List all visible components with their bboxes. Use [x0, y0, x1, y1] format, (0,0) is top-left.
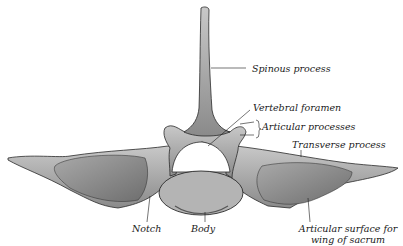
label-notch: Notch — [132, 223, 161, 234]
anatomy-figure: Spinous process Vertebral foramen Articu… — [0, 0, 403, 246]
label-transverse-process: Transverse process — [292, 139, 386, 150]
left-articular-surface-shape — [54, 155, 147, 201]
right-articular-surface-shape — [257, 163, 352, 205]
vertebral-body-shape — [159, 171, 243, 215]
label-articular-processes: Articular processes — [262, 121, 356, 132]
label-spinous-process: Spinous process — [252, 63, 331, 74]
label-articular-surface: Articular surface for wing of sacrum — [296, 223, 400, 245]
label-articular-surface-line2: wing of sacrum — [296, 234, 400, 245]
label-articular-surface-line1: Articular surface for — [296, 223, 400, 234]
label-vertebral-foramen: Vertebral foramen — [253, 102, 341, 113]
label-body: Body — [191, 223, 215, 234]
spinous-process-shape — [184, 7, 230, 136]
